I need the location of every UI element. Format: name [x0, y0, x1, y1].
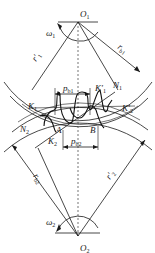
omega1-arc	[60, 28, 98, 41]
rb1-arrow-icon	[134, 66, 140, 72]
rb1-line	[78, 22, 140, 72]
label-r2-prime: r′2	[103, 168, 117, 181]
label-pb1: pb1	[62, 83, 74, 94]
o2-to-n2-line	[38, 148, 78, 236]
pb2-arrow-right-icon	[93, 145, 98, 149]
r2-prime-line	[78, 140, 145, 236]
label-k1-prime: K′1	[94, 83, 106, 94]
pb2-arrow-left-icon	[63, 145, 68, 149]
omega1-arrow-icon	[57, 23, 62, 30]
label-pb2: pb2	[70, 136, 82, 147]
label-n2: N2	[19, 124, 29, 135]
r2-prime-arrow-icon	[140, 140, 145, 146]
label-k1: K1	[27, 101, 37, 112]
gear-mesh-diagram: O1 O2 ω1 ω2 rb1 rb2 r′1 r′2 pb1 pb2 K′1 …	[0, 0, 155, 253]
gear-teeth	[40, 90, 112, 132]
label-a: A	[55, 125, 62, 135]
label-k2-prime: K′2	[121, 103, 133, 114]
label-r1-prime: r′1	[29, 50, 43, 63]
label-k2: K2	[47, 136, 57, 147]
label-n1: N1	[112, 80, 122, 91]
label-b: B	[90, 125, 96, 135]
rb2-arrow-icon	[12, 145, 17, 151]
rb2-line	[12, 145, 78, 236]
label-o1: O1	[80, 9, 90, 20]
label-omega1: ω1	[46, 28, 55, 39]
label-omega2: ω2	[46, 217, 55, 228]
label-o2: O2	[80, 243, 90, 253]
